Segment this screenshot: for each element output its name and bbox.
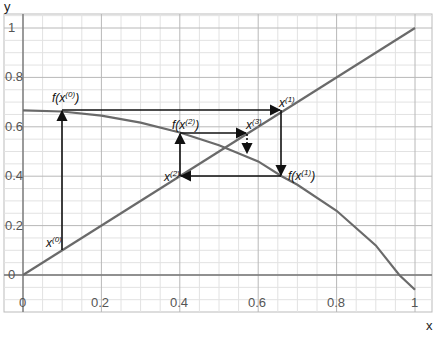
y-tick-1: 1	[8, 20, 15, 35]
x-tick-0.2: 0.2	[91, 295, 109, 310]
x-tick-0: 0	[19, 295, 26, 310]
y-tick-0.2: 0.2	[5, 218, 23, 233]
y-axis-label: y	[4, 0, 11, 14]
x-axis-label: x	[426, 318, 433, 333]
x-tick-0.4: 0.4	[170, 295, 188, 310]
y-tick-0.6: 0.6	[5, 119, 23, 134]
cobweb-chart: 1 0.8 0.6 0.4 0.2 0 0 0.2 0.4 0.6 0.8 1 …	[0, 0, 436, 339]
y-tick-0: 0	[8, 267, 15, 282]
y-tick-0.4: 0.4	[5, 168, 23, 183]
x-tick-0.8: 0.8	[327, 295, 345, 310]
y-tick-0.8: 0.8	[5, 69, 23, 84]
x-tick-1: 1	[411, 295, 418, 310]
x-tick-0.6: 0.6	[248, 295, 266, 310]
